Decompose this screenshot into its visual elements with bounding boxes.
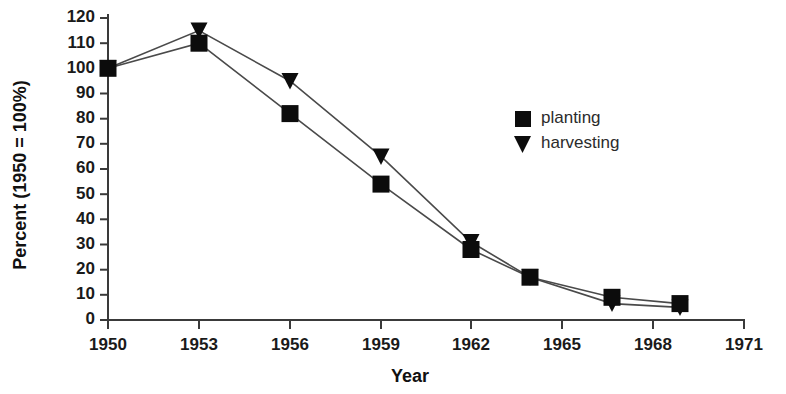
- x-tick-label: 1968: [634, 335, 672, 354]
- y-tick-label: 110: [68, 33, 95, 52]
- filled-square-icon: [515, 111, 531, 127]
- chart-svg: 120 110 100 90 80 70 60 50 40 30 20 10 0: [0, 0, 786, 394]
- y-tick-label: 30: [76, 234, 95, 253]
- y-tick-label: 120: [67, 7, 95, 26]
- x-tick-label: 1956: [271, 335, 309, 354]
- y-tick-label: 70: [76, 133, 95, 152]
- x-tick-label: 1971: [725, 335, 763, 354]
- y-tick-label: 40: [76, 209, 95, 228]
- y-axis-title: Percent (1950 = 100%): [10, 80, 30, 270]
- x-tick-label: 1953: [180, 335, 218, 354]
- x-tick-label: 1962: [452, 335, 490, 354]
- y-tick-label: 90: [76, 83, 95, 102]
- x-tick-label: 1959: [362, 335, 400, 354]
- y-tick-label: 100: [67, 58, 95, 77]
- y-tick-label: 60: [76, 158, 95, 177]
- legend-label-planting: planting: [541, 108, 601, 127]
- y-tick-label: 80: [76, 108, 95, 127]
- x-tick-label: 1965: [543, 335, 581, 354]
- y-tick-label: 20: [76, 259, 95, 278]
- x-tick-label: 1950: [89, 335, 127, 354]
- x-axis-title: Year: [391, 366, 429, 386]
- legend-label-harvesting: harvesting: [541, 133, 619, 152]
- y-tick-label: 10: [76, 284, 95, 303]
- y-tick-label: 50: [76, 184, 95, 203]
- chart-figure: 120 110 100 90 80 70 60 50 40 30 20 10 0: [0, 0, 786, 394]
- y-tick-label: 0: [86, 309, 95, 328]
- legend-item-planting: planting: [515, 108, 601, 127]
